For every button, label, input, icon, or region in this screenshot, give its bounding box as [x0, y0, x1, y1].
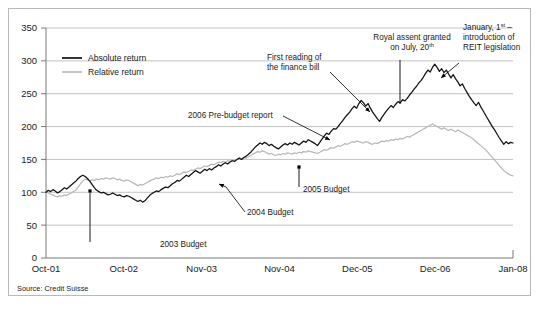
annotation-label-royal-assent: Royal assent granted	[373, 33, 451, 42]
annotation-label-first-reading-finance-bill: First reading of	[267, 53, 322, 62]
x-axis-tick-label: Nov-04	[264, 263, 295, 274]
legend-label-relative-return: Relative return	[88, 67, 144, 77]
annotation-label-budget-2005: 2005 Budget	[303, 185, 350, 194]
annotation-label-reit-legislation: REIT legislation	[463, 43, 521, 52]
annotation-label-budget-2003: 2003 Budget	[160, 240, 207, 249]
annotations-group: 2003 Budget2004 Budget2005 Budget2006 Pr…	[88, 22, 520, 249]
y-axis-tick-label: 100	[21, 187, 37, 198]
annotation-label-first-reading-finance-bill: the finance bill	[267, 63, 320, 72]
y-axis-tick-label: 200	[21, 121, 37, 132]
x-axis-tick-label: Jan-08	[498, 263, 527, 274]
annotation-label-pre-budget-report-2006: 2006 Pre-budget report	[188, 111, 273, 120]
y-axis-tick-label: 50	[26, 220, 37, 231]
legend: Absolute return Relative return	[62, 53, 147, 77]
x-axis-tick-label: Dec-05	[342, 263, 373, 274]
y-axis-tick-label: 250	[21, 88, 37, 99]
absolute-return-line	[46, 64, 513, 202]
legend-label-absolute-return: Absolute return	[88, 53, 147, 63]
y-axis-tick-label: 350	[21, 22, 37, 33]
chart-canvas: 050100150200250300350 Oct-01Oct-02Nov-03…	[0, 0, 539, 315]
x-axis-tick-label: Nov-03	[186, 263, 217, 274]
annotation-leader-pre-budget-report-2006	[283, 116, 330, 140]
annotation-label-reit-legislation: January, 1st –	[463, 22, 512, 32]
y-axis-tick-labels: 050100150200250300350	[21, 22, 37, 263]
x-axis-tick-label: Dec-06	[420, 263, 451, 274]
y-axis-tick-label: 150	[21, 154, 37, 165]
relative-return-line	[46, 124, 513, 197]
annotation-marker-budget-2005	[297, 165, 300, 168]
annotation-marker-budget-2003	[88, 189, 91, 192]
annotation-label-budget-2004: 2004 Budget	[247, 208, 294, 217]
x-axis-tick-label: Oct-01	[32, 263, 61, 274]
annotation-leader-budget-2004	[219, 184, 245, 212]
annotation-label-reit-legislation: introduction of	[463, 33, 515, 42]
y-axis-tick-label: 0	[32, 252, 37, 263]
source-note: Source: Credit Suisse	[17, 284, 88, 293]
chart-figure: 050100150200250300350 Oct-01Oct-02Nov-03…	[0, 0, 539, 315]
annotation-leader-first-reading-finance-bill	[330, 72, 370, 112]
x-axis-tick-label: Oct-02	[110, 263, 139, 274]
x-axis-tick-labels: Oct-01Oct-02Nov-03Nov-04Dec-05Dec-06Jan-…	[32, 263, 528, 274]
annotation-label-royal-assent: on July, 20th	[390, 42, 434, 52]
y-axis-tick-label: 300	[21, 55, 37, 66]
